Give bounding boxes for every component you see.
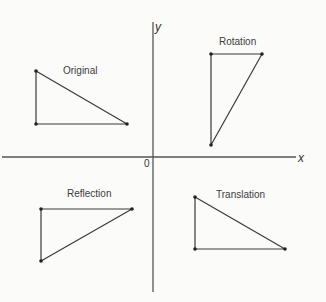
- vertex-dot: [209, 52, 213, 56]
- original-label: Original: [63, 65, 97, 76]
- vertex-dot: [34, 122, 38, 126]
- rotation-label: Rotation: [219, 36, 256, 47]
- shape-original: Original: [34, 65, 129, 126]
- vertex-dot: [130, 207, 134, 211]
- rotation-triangle: [211, 54, 262, 145]
- vertex-dot: [125, 122, 129, 126]
- vertex-dot: [209, 143, 213, 147]
- shape-reflection: Reflection: [39, 188, 134, 263]
- original-triangle: [36, 71, 127, 124]
- x-axis-label: x: [297, 151, 305, 165]
- translation-label: Translation: [216, 189, 265, 200]
- vertex-dot: [39, 259, 43, 263]
- reflection-triangle: [41, 209, 132, 261]
- vertex-dot: [39, 207, 43, 211]
- axes: x y 0: [2, 20, 305, 292]
- shape-rotation: Rotation: [209, 36, 264, 147]
- y-axis-label: y: [154, 20, 162, 34]
- translation-triangle: [195, 197, 285, 249]
- vertex-dot: [193, 247, 197, 251]
- origin-label: 0: [144, 158, 150, 169]
- shape-translation: Translation: [193, 189, 287, 251]
- vertex-dot: [260, 52, 264, 56]
- reflection-label: Reflection: [67, 188, 111, 199]
- vertex-dot: [34, 69, 38, 73]
- vertex-dot: [283, 247, 287, 251]
- vertex-dot: [193, 195, 197, 199]
- transformations-diagram: x y 0 Original Rotation Reflection Trans…: [0, 0, 326, 302]
